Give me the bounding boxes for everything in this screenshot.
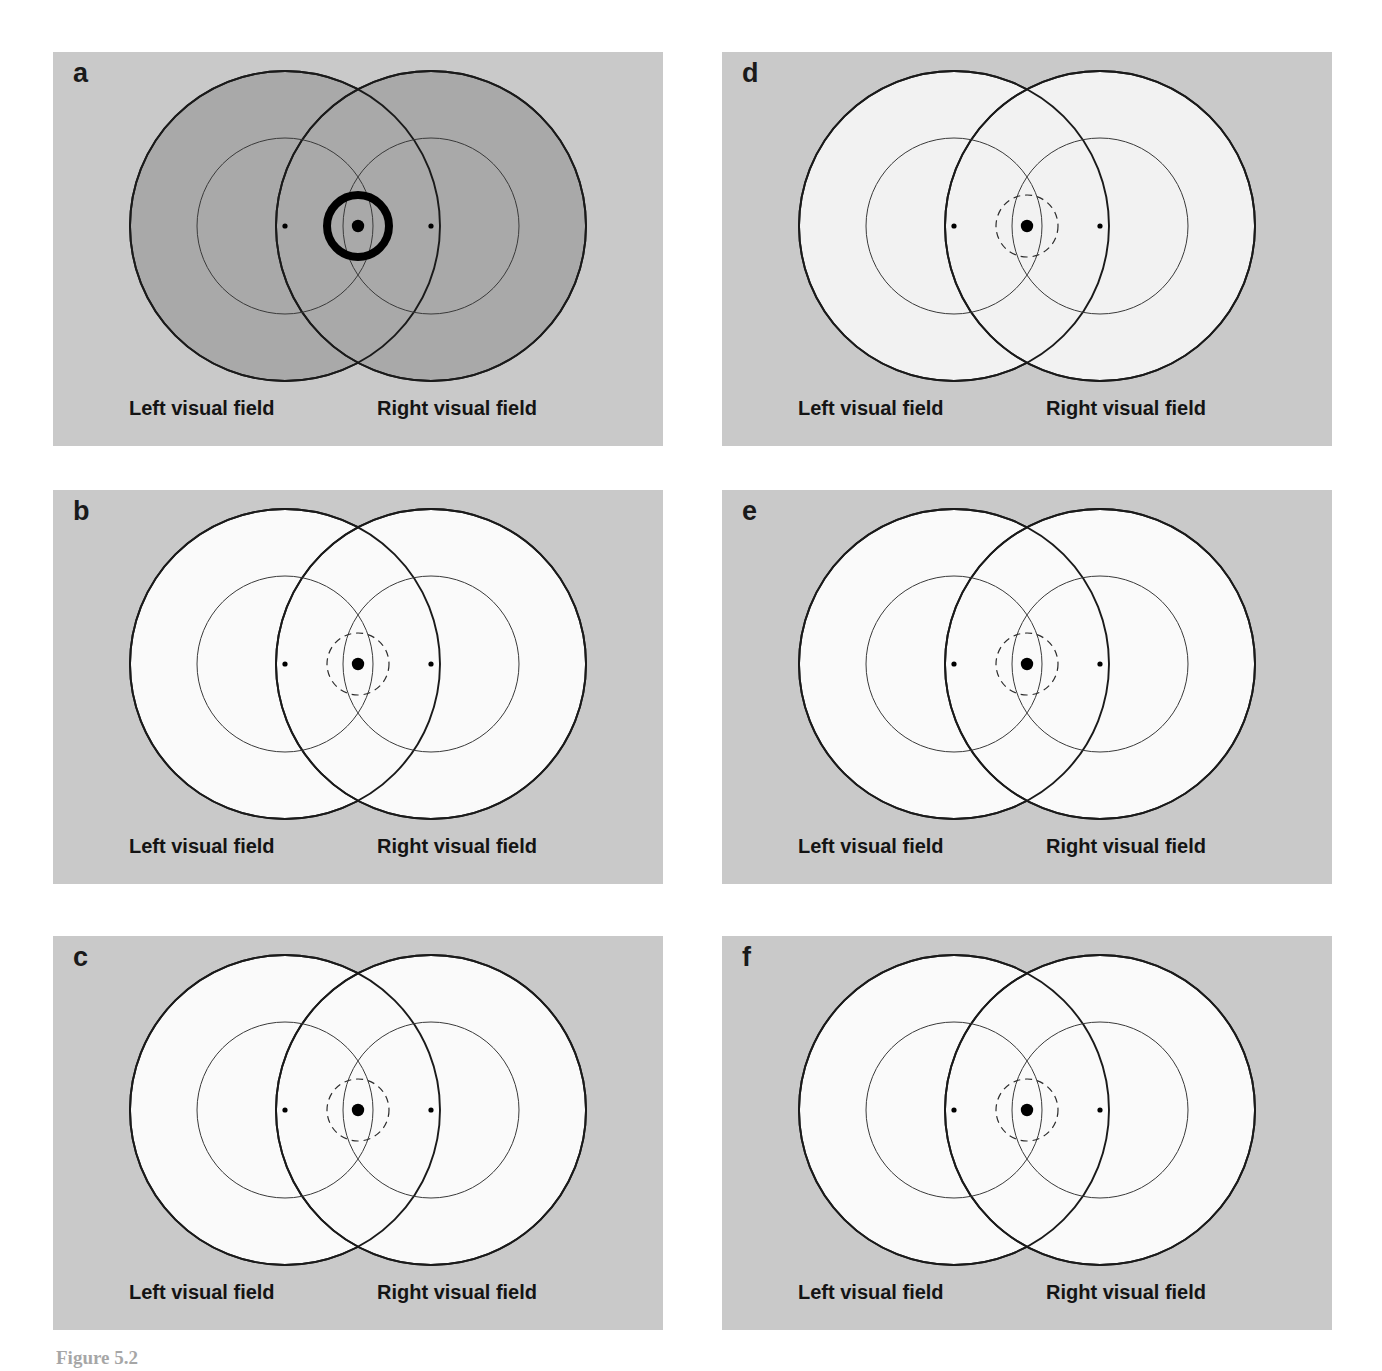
left-visual-field-label: Left visual field	[798, 835, 944, 858]
figure-visual-field-panels: aLeft visual fieldRight visual fielddLef…	[0, 0, 1382, 1371]
right-visual-field-label: Right visual field	[1046, 397, 1206, 420]
panel-f: fLeft visual fieldRight visual field	[722, 936, 1332, 1330]
right-visual-field-label: Right visual field	[377, 835, 537, 858]
right-visual-field-label: Right visual field	[377, 1281, 537, 1304]
right-visual-field-label: Right visual field	[1046, 835, 1206, 858]
panel-c: cLeft visual fieldRight visual field	[53, 936, 663, 1330]
panel-graphic-a	[53, 52, 663, 446]
panel-e: eLeft visual fieldRight visual field	[722, 490, 1332, 884]
figure-caption: Figure 5.2	[56, 1347, 1156, 1371]
left-visual-field-label: Left visual field	[129, 397, 275, 420]
panel-graphic-e	[722, 490, 1332, 884]
right-visual-field-label: Right visual field	[1046, 1281, 1206, 1304]
panel-graphic-b	[53, 490, 663, 884]
left-visual-field-label: Left visual field	[129, 1281, 275, 1304]
panel-graphic-f	[722, 936, 1332, 1330]
left-visual-field-label: Left visual field	[129, 835, 275, 858]
panel-d: dLeft visual fieldRight visual field	[722, 52, 1332, 446]
panel-graphic-d	[722, 52, 1332, 446]
left-visual-field-label: Left visual field	[798, 397, 944, 420]
right-visual-field-label: Right visual field	[377, 397, 537, 420]
left-visual-field-label: Left visual field	[798, 1281, 944, 1304]
panel-b: bLeft visual fieldRight visual field	[53, 490, 663, 884]
panel-a: aLeft visual fieldRight visual field	[53, 52, 663, 446]
panel-graphic-c	[53, 936, 663, 1330]
